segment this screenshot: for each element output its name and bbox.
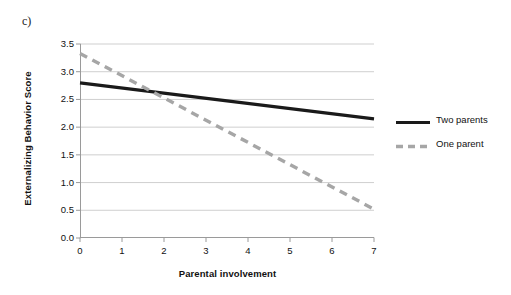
data-series-group <box>80 53 374 209</box>
x-tick-label: 1 <box>110 245 134 256</box>
y-tick-label: 1.5 <box>48 150 74 160</box>
series-line-one-parent <box>80 53 374 209</box>
legend-swatch-two-parents <box>396 118 430 127</box>
panel-label: c) <box>22 14 31 28</box>
figure-panel-c: c) Externalizing Behavior Score 0.00.51.… <box>0 0 511 295</box>
y-tick-label: 3.0 <box>48 67 74 77</box>
axis-lines <box>80 44 374 238</box>
x-tick-label: 7 <box>362 245 386 256</box>
x-tick-label: 0 <box>68 245 92 256</box>
plot-area <box>80 44 374 238</box>
legend-item-one-parent: One parent <box>396 136 508 160</box>
legend-label-two-parents: Two parents <box>436 114 488 126</box>
legend-item-two-parents: Two parents <box>396 112 508 136</box>
y-tick-label: 2.5 <box>48 94 74 104</box>
series-line-two-parents <box>80 83 374 119</box>
x-tick-label: 2 <box>152 245 176 256</box>
x-tick-label: 3 <box>194 245 218 256</box>
legend-swatch-one-parent <box>396 142 430 151</box>
y-tick-label: 1.0 <box>48 178 74 188</box>
plot-svg <box>80 44 374 238</box>
x-axis-title: Parental involvement <box>80 268 375 279</box>
y-axis-tick-marks <box>76 44 81 238</box>
legend: Two parents One parent <box>396 112 508 160</box>
x-axis-tick-labels: 01234567 <box>80 245 374 259</box>
x-axis-tick-marks <box>80 238 374 243</box>
x-tick-label: 5 <box>278 245 302 256</box>
y-axis-tick-labels: 0.00.51.01.52.02.53.03.5 <box>44 44 74 238</box>
x-tick-label: 6 <box>320 245 344 256</box>
y-tick-label: 0.5 <box>48 205 74 215</box>
y-tick-label: 0.0 <box>48 233 74 243</box>
legend-label-one-parent: One parent <box>436 138 484 150</box>
x-tick-label: 4 <box>236 245 260 256</box>
y-axis-title: Externalizing Behavior Score <box>22 39 33 239</box>
y-tick-label: 2.0 <box>48 122 74 132</box>
y-tick-label: 3.5 <box>48 39 74 49</box>
